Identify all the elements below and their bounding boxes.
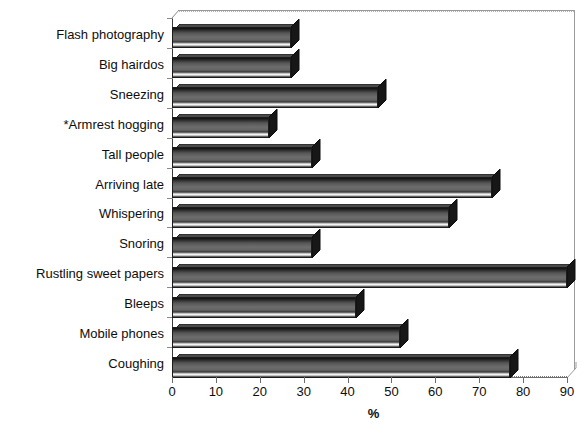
bar-top-face	[172, 79, 386, 87]
bar-top-face	[172, 319, 408, 327]
bar	[172, 319, 408, 340]
bar	[172, 229, 320, 250]
bar-front-face	[172, 117, 269, 138]
value-tick-label: 90	[560, 384, 574, 399]
bar-side-face	[378, 79, 386, 113]
bar-front-face	[172, 177, 492, 198]
value-tick-label: 70	[472, 384, 486, 399]
value-tick-label: 30	[296, 384, 310, 399]
bar-top-face	[172, 289, 364, 297]
bar-front-face	[172, 27, 291, 48]
bar-front-face	[172, 147, 312, 168]
bar	[172, 19, 299, 40]
value-tick	[304, 377, 305, 383]
value-tick	[479, 377, 480, 383]
value-tick	[435, 377, 436, 383]
bar	[172, 139, 320, 160]
value-tick	[391, 377, 392, 383]
bar-front-face	[172, 237, 312, 258]
bar-top-face	[172, 19, 299, 27]
bar-side-face	[269, 109, 277, 143]
bar-top-face	[172, 229, 320, 237]
bar-top-face	[172, 199, 457, 207]
bar-front-face	[172, 57, 291, 78]
x-axis-title: %	[0, 406, 584, 421]
bar-front-face	[172, 357, 510, 378]
bar-front-face	[172, 207, 449, 228]
value-tick-label: 40	[340, 384, 354, 399]
bar-top-face	[172, 349, 518, 357]
value-tick-label: 20	[253, 384, 267, 399]
bar-side-face	[312, 229, 320, 263]
x-axis-title-text: %	[368, 406, 380, 421]
value-tick	[260, 377, 261, 383]
bar	[172, 349, 518, 370]
value-tick-label: 10	[209, 384, 223, 399]
bar-top-face	[172, 259, 575, 267]
bar-top-face	[172, 139, 320, 147]
value-tick	[523, 377, 524, 383]
value-tick	[348, 377, 349, 383]
bar	[172, 79, 386, 100]
value-tick-label: 0	[168, 384, 175, 399]
bar-side-face	[400, 319, 408, 353]
bar-side-face	[312, 139, 320, 173]
bar	[172, 289, 364, 310]
bar-front-face	[172, 297, 356, 318]
bar-front-face	[172, 87, 378, 108]
bar-front-face	[172, 327, 400, 348]
bar	[172, 259, 575, 280]
bar	[172, 169, 500, 190]
value-tick-label: 50	[384, 384, 398, 399]
bar	[172, 199, 457, 220]
value-tick	[172, 377, 173, 383]
value-tick	[216, 377, 217, 383]
bar-side-face	[291, 49, 299, 83]
bar-side-face	[492, 169, 500, 203]
bar-side-face	[291, 19, 299, 53]
value-axis-ticks	[0, 377, 584, 387]
value-tick	[567, 377, 568, 383]
bar-front-face	[172, 267, 567, 288]
bar-top-face	[172, 109, 277, 117]
bar	[172, 109, 277, 130]
bar-side-face	[356, 289, 364, 323]
bar	[172, 49, 299, 70]
bars-layer	[0, 0, 584, 435]
bar-chart: Flash photographyBig hairdosSneezing*Arm…	[0, 0, 584, 435]
value-tick-label: 80	[516, 384, 530, 399]
bar-side-face	[449, 199, 457, 233]
bar-side-face	[567, 259, 575, 293]
bar-top-face	[172, 49, 299, 57]
value-tick-label: 60	[428, 384, 442, 399]
bar-top-face	[172, 169, 500, 177]
